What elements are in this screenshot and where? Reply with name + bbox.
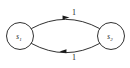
graph-canvas: 1 1 s1 s2 [0, 0, 130, 68]
node-label-s1-subscript: 1 [19, 36, 22, 41]
edge-label-s2-to-s1: 1 [72, 53, 76, 62]
edge-label-s1-to-s2: 1 [72, 8, 76, 17]
state-transition-diagram: 1 1 s1 s2 [0, 0, 130, 68]
edge-s1-to-s2 [32, 19, 100, 28]
